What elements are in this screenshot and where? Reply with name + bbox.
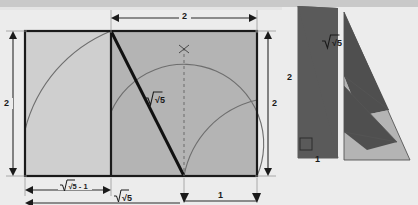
figure-canvas: √5 2 2 2 — [0, 0, 418, 205]
panel-divider — [0, 7, 282, 10]
dim-label-top: 2 — [182, 11, 187, 21]
dim-label-bottom-right: 1 — [218, 190, 223, 200]
right-panel-hypotenuse-text: √5 — [332, 38, 342, 48]
geometry-figure: √5 2 2 2 — [0, 0, 418, 205]
left-square-fill — [25, 31, 111, 176]
dim-label-bottom-mid: √5 — [122, 193, 132, 203]
top-band — [0, 0, 418, 7]
dim-label-left: 2 — [4, 98, 9, 108]
dim-label-right: 2 — [272, 98, 277, 108]
golden-ratio-construction: √5 2 2 2 — [2, 10, 277, 205]
dim-label-bottom-left: √5 - 1 — [69, 182, 88, 191]
hypotenuse-label-text: √5 — [155, 95, 165, 105]
right-panel-vertical-label: 2 — [287, 72, 292, 82]
right-panel-horizontal-label: 1 — [315, 154, 320, 164]
